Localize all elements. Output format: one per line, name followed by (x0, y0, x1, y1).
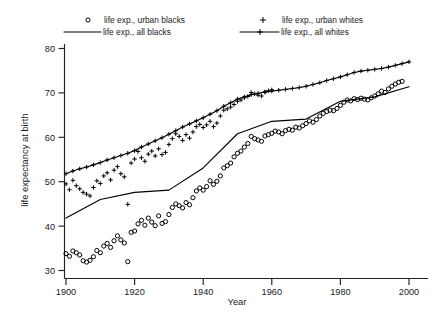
legend-label-urban-whites: life exp., urban whites (282, 15, 363, 25)
life-expectancy-chart: life exp., urban blacks life exp., all b… (0, 0, 433, 314)
x-tick-label: 1920 (124, 287, 144, 297)
x-tick-label: 1940 (193, 287, 213, 297)
x-tick-label: 1900 (56, 287, 76, 297)
x-tick-label: 1960 (262, 287, 282, 297)
x-tick-label: 1980 (330, 287, 350, 297)
y-tick-label: 70 (45, 88, 55, 98)
legend-label-all-blacks: life exp., all blacks (103, 27, 171, 37)
y-tick-label: 60 (45, 133, 55, 143)
y-tick-label: 30 (45, 266, 55, 276)
x-axis-title: Year (228, 296, 247, 307)
y-tick-label: 50 (45, 177, 55, 187)
legend-label-urban-blacks: life exp., urban blacks (104, 15, 185, 25)
legend-label-all-whites: life exp., all whites (281, 27, 349, 37)
y-tick-label: 40 (45, 222, 55, 232)
x-tick-label: 2000 (399, 287, 419, 297)
y-axis-title: life expectancy at birth (19, 113, 30, 206)
y-tick-label: 80 (45, 44, 55, 54)
